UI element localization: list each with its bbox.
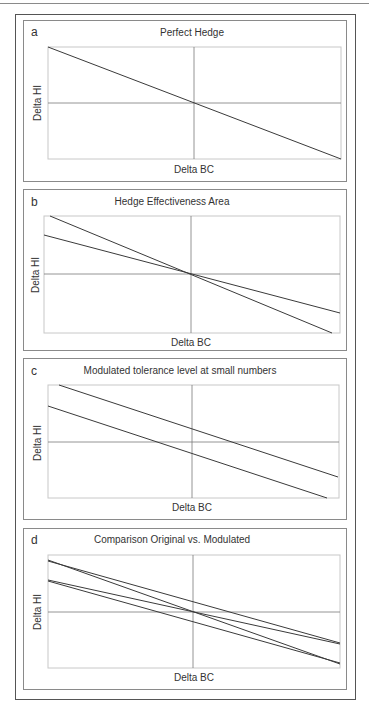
series-modulated-upper bbox=[48, 561, 340, 643]
series-modulated-lower bbox=[48, 581, 340, 663]
panel-d-plot bbox=[0, 0, 369, 717]
